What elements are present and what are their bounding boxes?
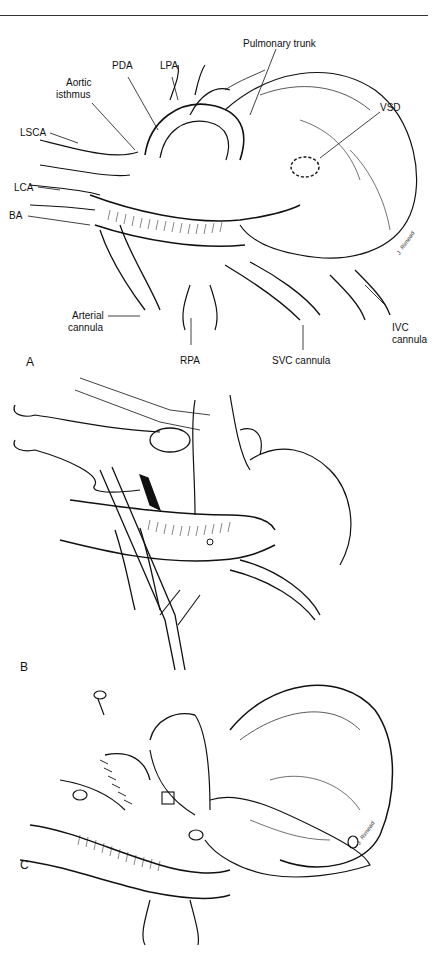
panel-letter-c: C [20, 858, 29, 872]
label-aortic-isthmus-line1: Aortic [66, 77, 92, 88]
panel-b-illustration [0, 370, 446, 670]
label-lsca: LSCA [20, 127, 46, 138]
label-vsd: VSD [380, 102, 401, 113]
label-lpa: LPA [160, 60, 178, 71]
label-aortic-isthmus-line2: isthmus [56, 89, 90, 100]
panel-letter-a: A [26, 355, 34, 369]
panel-c-illustration [0, 670, 446, 957]
label-arterial-cannula-line2: cannula [68, 322, 103, 333]
panel-a: Pulmonary trunk PDA LPA Aortic isthmus V… [0, 0, 446, 370]
label-ba: BA [9, 210, 22, 221]
label-svc-cannula: SVC cannula [272, 355, 330, 366]
label-rpa: RPA [180, 355, 200, 366]
label-pulmonary-trunk: Pulmonary trunk [243, 38, 316, 49]
panel-a-illustration [0, 0, 446, 370]
label-arterial-cannula-line1: Arterial [72, 310, 104, 321]
panel-b: B [0, 370, 446, 670]
label-ivc-cannula-line2: cannula [392, 334, 427, 345]
panel-c: J. Rimead C [0, 670, 446, 957]
label-pda: PDA [112, 60, 133, 71]
label-lca: LCA [14, 182, 33, 193]
label-ivc-cannula-line1: IVC [392, 322, 409, 333]
